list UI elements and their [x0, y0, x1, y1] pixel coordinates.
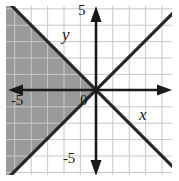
y-axis-label: y: [62, 26, 70, 43]
x-axis-label: x: [139, 106, 147, 123]
x-axis-tick-label-negative-5: -5: [11, 93, 23, 108]
y-axis-tick-label-negative-5: -5: [63, 151, 75, 166]
coordinate-plane: [0, 0, 179, 181]
graph-figure: 5 -5 -5 0 y x: [0, 0, 179, 181]
y-axis-tick-label-5: 5: [78, 3, 85, 18]
origin-label: 0: [80, 93, 87, 108]
